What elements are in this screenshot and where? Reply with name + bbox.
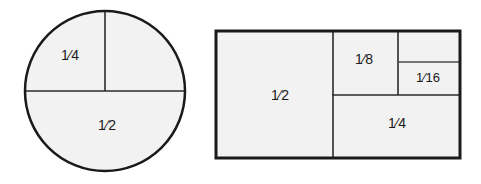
circle-fraction-diagram: 1⁄4 1⁄2 [25,11,185,171]
rectangle-cell-unlabeled-smallest [398,31,460,62]
rectangle-label-one-eighth: 1⁄8 [355,51,373,67]
circle-label-one-half: 1⁄2 [98,117,116,133]
figure-canvas: 1⁄4 1⁄2 1⁄2 [0,0,481,184]
fraction-diagram-figure: 1⁄4 1⁄2 1⁄2 [0,0,481,184]
rectangle-fraction-diagram: 1⁄2 1⁄4 1⁄8 1⁄16 [216,31,460,158]
rectangle-label-one-sixteenth: 1⁄16 [416,70,440,85]
rectangle-label-one-quarter: 1⁄4 [388,115,406,131]
rectangle-label-one-half: 1⁄2 [271,87,289,103]
circle-label-one-quarter: 1⁄4 [61,47,79,63]
